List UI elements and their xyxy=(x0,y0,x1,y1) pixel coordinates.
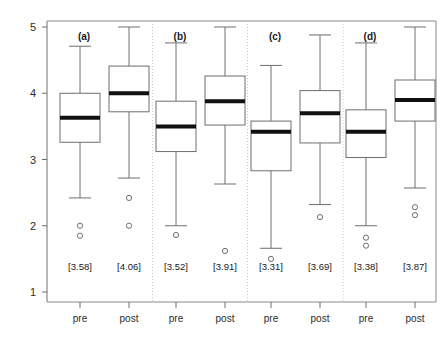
panel-label: (d) xyxy=(364,31,377,42)
mean-value-label: [3.58] xyxy=(68,261,92,272)
x-tick-label-pre: pre xyxy=(264,313,279,324)
figure-background xyxy=(0,0,444,338)
panel-label: (a) xyxy=(78,31,90,42)
x-tick-label-pre: pre xyxy=(169,313,184,324)
mean-value-label: [3.87] xyxy=(403,261,427,272)
x-tick-label-post: post xyxy=(311,313,330,324)
mean-value-label: [4.06] xyxy=(117,261,141,272)
y-tick-label: 1 xyxy=(30,286,36,298)
y-tick-label: 2 xyxy=(30,220,36,232)
x-tick-label-pre: pre xyxy=(73,313,88,324)
panel-label: (c) xyxy=(269,31,281,42)
boxplot-figure: 12345 [3.58][4.06](a)[3.52][3.91](b)[3.3… xyxy=(0,0,444,338)
box-iqr xyxy=(109,66,149,112)
panel-label: (b) xyxy=(174,31,187,42)
mean-value-label: [3.38] xyxy=(354,261,378,272)
y-tick-label: 5 xyxy=(30,21,36,33)
mean-value-label: [3.91] xyxy=(213,261,237,272)
y-tick-label: 3 xyxy=(30,154,36,166)
box-iqr xyxy=(251,121,291,171)
y-tick-label: 4 xyxy=(30,87,36,99)
mean-value-label: [3.69] xyxy=(308,261,332,272)
x-tick-label-post: post xyxy=(216,313,235,324)
boxplot-svg: 12345 [3.58][4.06](a)[3.52][3.91](b)[3.3… xyxy=(0,0,444,338)
box-iqr xyxy=(300,91,340,143)
mean-value-label: [3.31] xyxy=(259,261,283,272)
x-tick-label-pre: pre xyxy=(359,313,374,324)
x-tick-label-post: post xyxy=(406,313,425,324)
mean-value-label: [3.52] xyxy=(164,261,188,272)
x-tick-label-post: post xyxy=(120,313,139,324)
